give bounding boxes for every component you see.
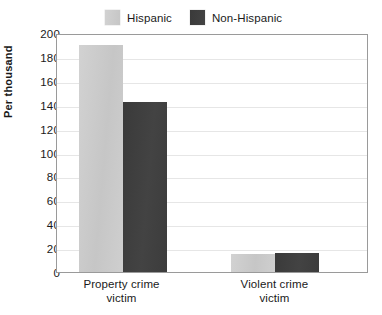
y-axis-tick-label: 120 (20, 124, 60, 136)
x-axis-label-line: victim (214, 292, 334, 306)
y-axis-tick-label: 60 (20, 195, 60, 207)
y-axis-tick-label: 0 (20, 267, 60, 279)
dark-gray-swatch-icon (190, 10, 205, 25)
y-axis-tick-label: 100 (20, 148, 60, 160)
x-axis-label-line: Violent crime (214, 278, 334, 292)
y-axis-tick-label: 160 (20, 76, 60, 88)
y-axis-tick-label: 40 (20, 219, 60, 231)
bar-hispanic-0 (79, 45, 123, 272)
legend-label-non-hispanic: Non-Hispanic (212, 12, 282, 24)
x-axis-label-line: victim (62, 292, 182, 306)
x-axis-category-label: Property crimevictim (62, 278, 182, 305)
bar-non-hispanic-0 (123, 102, 167, 272)
y-axis-tick-label: 20 (20, 243, 60, 255)
y-axis-tick-label: 140 (20, 100, 60, 112)
chart-legend: Hispanic Non-Hispanic (105, 10, 282, 25)
y-axis-title: Per thousand (2, 8, 14, 118)
bar-hispanic-1 (231, 254, 275, 272)
x-axis-label-line: Property crime (62, 278, 182, 292)
legend-item-hispanic: Hispanic (105, 10, 172, 25)
bar-non-hispanic-1 (275, 253, 319, 272)
plot-area (56, 34, 368, 273)
y-axis-tick-label: 180 (20, 52, 60, 64)
x-axis-category-label: Violent crimevictim (214, 278, 334, 305)
light-gray-swatch-icon (105, 10, 120, 25)
legend-label-hispanic: Hispanic (127, 12, 172, 24)
y-axis-tick-label: 80 (20, 171, 60, 183)
bar-series-layer (57, 35, 367, 272)
y-axis-tick-label: 200 (20, 28, 60, 40)
bar-chart: Hispanic Non-Hispanic Per thousand 20018… (0, 0, 382, 315)
legend-item-non-hispanic: Non-Hispanic (190, 10, 282, 25)
